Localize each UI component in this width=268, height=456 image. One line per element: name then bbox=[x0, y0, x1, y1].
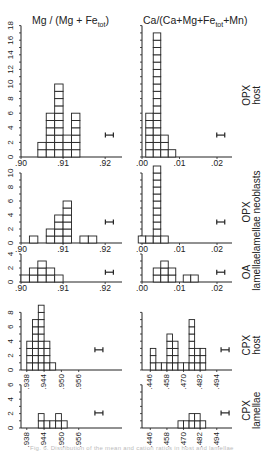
histogram-cell bbox=[189, 327, 195, 334]
histogram-cell bbox=[153, 275, 161, 282]
histogram-cell bbox=[55, 229, 63, 236]
x-tick-label: .90 bbox=[15, 283, 27, 293]
histogram-cell bbox=[38, 327, 44, 334]
x-tick-label: .944 bbox=[39, 373, 48, 389]
histogram-cell bbox=[38, 341, 44, 348]
histogram-cell bbox=[55, 113, 63, 120]
panel-sublabel: host bbox=[251, 336, 262, 355]
histogram-cell bbox=[55, 150, 63, 157]
histogram-cell bbox=[138, 236, 146, 243]
y-tick-label: 4 bbox=[6, 251, 15, 256]
histogram-cell bbox=[55, 128, 63, 135]
histogram-cell bbox=[153, 215, 161, 222]
histogram-cell bbox=[38, 348, 44, 355]
x-tick-label: .92 bbox=[99, 244, 111, 254]
histogram-cell bbox=[153, 180, 161, 187]
histogram-cell bbox=[46, 142, 54, 149]
histogram-cell bbox=[38, 268, 46, 275]
histogram-cell bbox=[55, 84, 63, 91]
histogram-cell bbox=[153, 62, 161, 69]
histogram-cell bbox=[153, 69, 161, 76]
x-tick-label: .91 bbox=[57, 283, 69, 293]
y-tick-label: 6 bbox=[6, 110, 15, 115]
x-tick-label: .91 bbox=[57, 244, 69, 254]
histogram-cell bbox=[33, 356, 39, 363]
y-tick-label: 14 bbox=[6, 50, 15, 59]
histogram-cell bbox=[38, 363, 44, 370]
histogram-cell bbox=[153, 187, 161, 194]
x-tick-label: .956 bbox=[74, 373, 83, 389]
histogram-cell bbox=[63, 222, 71, 229]
histogram-cell bbox=[153, 55, 161, 62]
histogram-cell bbox=[46, 113, 54, 120]
histogram-cell bbox=[61, 421, 67, 428]
histogram-cell bbox=[44, 421, 50, 428]
x-tick-label: .02 bbox=[211, 283, 223, 293]
x-tick-label: .90 bbox=[15, 244, 27, 254]
histogram-cell bbox=[80, 236, 88, 243]
histogram-cell bbox=[55, 99, 63, 106]
histogram-cell bbox=[178, 363, 184, 370]
histogram-cell bbox=[33, 320, 39, 327]
histogram-cell bbox=[29, 236, 37, 243]
histogram-cell bbox=[27, 363, 33, 370]
x-tick-label: .494 bbox=[212, 373, 221, 389]
histogram-cell bbox=[153, 236, 161, 243]
histogram-cell bbox=[161, 150, 169, 157]
histogram-cell bbox=[183, 275, 191, 282]
histogram-cell bbox=[72, 150, 80, 157]
histogram-cell bbox=[29, 275, 37, 282]
y-tick-label: 2 bbox=[6, 353, 15, 358]
histogram-cell bbox=[146, 113, 154, 120]
histogram-cell bbox=[172, 348, 178, 355]
histogram-cell bbox=[63, 229, 71, 236]
histogram-cell bbox=[46, 121, 54, 128]
histogram-cell bbox=[33, 363, 39, 370]
histogram-cell bbox=[72, 135, 80, 142]
histogram-figure: 024681012141618.90.91.92.00.01.02OPXhost… bbox=[0, 0, 268, 456]
histogram-cell bbox=[161, 236, 169, 243]
histogram-cell bbox=[189, 348, 195, 355]
y-tick-label: 0 bbox=[6, 240, 15, 245]
y-tick-label: 4 bbox=[6, 396, 15, 401]
panel-sublabel: lamellae bbox=[251, 391, 262, 429]
histogram-cell bbox=[55, 215, 63, 222]
x-tick-label: .938 bbox=[22, 373, 31, 389]
histogram-cell bbox=[189, 414, 195, 421]
histogram-cell bbox=[153, 91, 161, 98]
histogram-cell bbox=[44, 348, 50, 355]
histogram-cell bbox=[153, 229, 161, 236]
histogram-cell bbox=[195, 414, 201, 421]
histogram-cell bbox=[167, 341, 173, 348]
histogram-cell bbox=[153, 194, 161, 201]
x-tick-label: .950 bbox=[57, 373, 66, 389]
histogram-cell bbox=[146, 128, 154, 135]
histogram-cell bbox=[55, 135, 63, 142]
histogram-cell bbox=[153, 77, 161, 84]
histogram-cell bbox=[38, 261, 46, 268]
histogram-cell bbox=[168, 268, 176, 275]
y-tick-label: 2 bbox=[6, 265, 15, 270]
histogram-cell bbox=[153, 121, 161, 128]
histogram-cell bbox=[161, 142, 169, 149]
histogram-cell bbox=[153, 99, 161, 106]
histogram-cell bbox=[55, 106, 63, 113]
x-tick-label: .470 bbox=[179, 373, 188, 389]
histogram-cell bbox=[63, 215, 71, 222]
x-tick-label: .91 bbox=[57, 158, 69, 168]
histogram-cell bbox=[50, 363, 56, 370]
y-tick-label: 16 bbox=[6, 35, 15, 44]
histogram-cell bbox=[46, 150, 54, 157]
histogram-cell bbox=[184, 363, 190, 370]
histogram-cell bbox=[189, 363, 195, 370]
y-tick-label: 0 bbox=[6, 279, 15, 284]
histogram-cell bbox=[146, 142, 154, 149]
y-tick-label: 6 bbox=[6, 382, 15, 387]
histogram-cell bbox=[146, 121, 154, 128]
histogram-cell bbox=[168, 275, 176, 282]
histogram-cell bbox=[200, 363, 206, 370]
x-tick-label: .90 bbox=[15, 158, 27, 168]
histogram-cell bbox=[153, 166, 161, 173]
histogram-cell bbox=[63, 142, 71, 149]
histogram-cell bbox=[72, 142, 80, 149]
